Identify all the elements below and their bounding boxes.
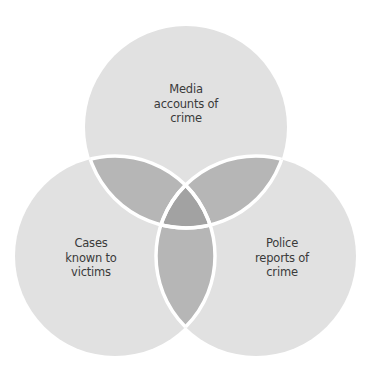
- label-cases-known-to-victims: Cases known to victims: [36, 236, 146, 280]
- label-line: accounts of: [131, 97, 241, 112]
- label-line: Cases: [36, 236, 146, 251]
- label-line: reports of: [227, 251, 337, 266]
- label-police-reports-of-crime: Police reports of crime: [227, 236, 337, 280]
- label-line: known to: [36, 251, 146, 266]
- label-line: Police: [227, 236, 337, 251]
- label-line: crime: [227, 265, 337, 280]
- label-media-accounts-of-crime: Media accounts of crime: [131, 82, 241, 126]
- venn-diagram: [0, 0, 376, 371]
- label-line: crime: [131, 111, 241, 126]
- label-line: Media: [131, 82, 241, 97]
- label-line: victims: [36, 265, 146, 280]
